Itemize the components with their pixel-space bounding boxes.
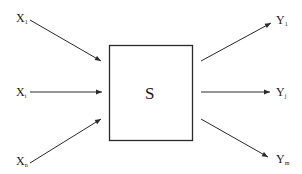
output-label-base: Y: [276, 152, 285, 166]
input-label-sub: i: [25, 93, 27, 99]
input-label-n: Xn: [16, 155, 28, 171]
output-label-base: Y: [276, 13, 285, 27]
output-label-sub: j: [285, 93, 287, 99]
input-arrow-1: [30, 20, 101, 61]
output-label-j: Yj: [276, 86, 286, 102]
input-label-i: Xi: [16, 86, 26, 102]
input-label-base: X: [16, 11, 25, 25]
output-label-base: Y: [276, 85, 285, 99]
system-label: S: [145, 85, 154, 102]
output-label-1: Y1: [276, 14, 288, 30]
input-label-1: X1: [16, 12, 28, 28]
output-label-sub: m: [285, 160, 290, 166]
output-label-m: Ym: [276, 153, 289, 169]
input-label-base: X: [16, 85, 25, 99]
output-label-sub: 1: [285, 21, 288, 27]
input-label-base: X: [16, 154, 25, 168]
output-arrow-1: [201, 23, 271, 61]
input-label-sub: 1: [25, 19, 28, 25]
input-label-sub: n: [25, 162, 28, 168]
input-arrow-n: [30, 119, 101, 163]
output-arrow-m: [201, 119, 268, 157]
